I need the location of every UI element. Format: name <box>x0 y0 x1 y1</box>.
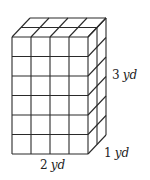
depth-label: 1yd <box>104 146 129 160</box>
height-label: 3yd <box>112 68 137 82</box>
width-label: 2yd <box>40 158 65 172</box>
width-unit: yd <box>51 158 65 172</box>
front-face <box>12 37 88 154</box>
height-value: 3 <box>112 68 120 82</box>
top-face <box>12 18 106 37</box>
right-face <box>88 18 106 154</box>
height-unit: yd <box>123 68 137 82</box>
depth-value: 1 <box>104 146 112 160</box>
width-value: 2 <box>40 158 48 172</box>
depth-unit: yd <box>115 146 129 160</box>
